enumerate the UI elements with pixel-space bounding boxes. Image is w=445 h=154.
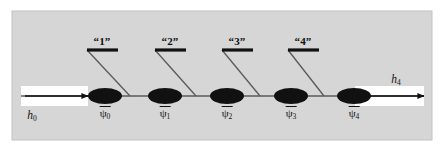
- psi-node-psi1: [148, 88, 182, 104]
- psi-node-psi0: [88, 88, 122, 104]
- figure-panel-background: [12, 11, 432, 140]
- psi-node-psi2: [210, 88, 244, 104]
- tensor-network-figure: “1”“2”“3”“4” ψ0ψ1ψ2ψ3ψ4 h0h4: [0, 0, 445, 154]
- figure-canvas: [0, 0, 445, 154]
- psi-node-psi3: [274, 88, 308, 104]
